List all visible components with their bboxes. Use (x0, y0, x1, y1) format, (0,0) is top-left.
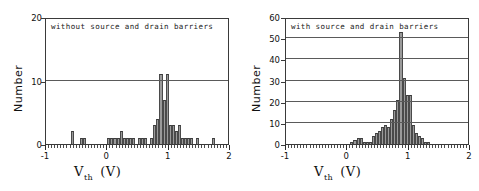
histogram-bar (132, 138, 135, 144)
x-tick-label: 2 (219, 151, 239, 161)
y-axis-label-right: Number (250, 65, 263, 112)
histogram-bar (144, 138, 147, 144)
histogram-bar (212, 138, 215, 144)
x-tick-mark (469, 145, 470, 150)
y-tick-mark (41, 82, 45, 83)
gridline (286, 37, 468, 38)
x-axis-label-unit: (V) (100, 164, 121, 179)
y-tick-label: 20 (269, 98, 280, 108)
x-axis-label-left: Vth(V) (74, 164, 121, 182)
x-tick-mark (346, 145, 347, 150)
y-tick-label: 40 (269, 55, 280, 65)
histogram-bar (190, 138, 193, 144)
x-tick-label: 1 (158, 151, 178, 161)
y-tick-mark (281, 103, 285, 104)
x-tick-mark (45, 145, 46, 150)
y-tick-mark (281, 124, 285, 125)
x-tick-mark (168, 145, 169, 150)
y-tick-mark (281, 60, 285, 61)
x-tick-label: -1 (275, 151, 295, 161)
x-tick-label: 1 (398, 151, 418, 161)
y-tick-mark (281, 145, 285, 146)
gridline (46, 80, 228, 81)
y-tick-label: 10 (269, 119, 280, 129)
x-tick-mark (285, 145, 286, 150)
x-tick-mark (106, 145, 107, 150)
x-axis-label-subscript: th (84, 173, 93, 182)
x-axis-minor-ticks (285, 145, 469, 149)
y-tick-mark (41, 18, 45, 19)
y-tick-label: 0 (275, 140, 280, 150)
y-tick-mark (281, 18, 285, 19)
figure-histogram-pair: 01020 Number without source and drain ba… (0, 0, 479, 191)
y-tick-label: 30 (269, 77, 280, 87)
gridline (286, 58, 468, 59)
x-axis-label-subscript: th (324, 173, 333, 182)
plot-area-right: with source and drain barriers (285, 18, 469, 145)
histogram-bar (196, 138, 199, 144)
gridline (286, 122, 468, 123)
y-tick-label: 50 (269, 34, 280, 44)
gridline (286, 101, 468, 102)
plot-area-left: without source and drain barriers (45, 18, 229, 145)
x-tick-mark (408, 145, 409, 150)
x-axis-minor-ticks (45, 145, 229, 149)
y-tick-mark (41, 145, 45, 146)
histogram-bar (427, 142, 430, 144)
y-tick-mark (281, 39, 285, 40)
histogram-bar (83, 138, 86, 144)
panel-with-barriers: 0102030405060 Number with source and dra… (240, 0, 479, 191)
gridline (286, 80, 468, 81)
x-tick-label: 0 (336, 151, 356, 161)
x-axis-label-unit: (V) (340, 164, 361, 179)
histogram-bar (71, 131, 74, 144)
x-axis-label-right: Vth(V) (314, 164, 361, 182)
x-tick-mark (229, 145, 230, 150)
panel-without-barriers: 01020 Number without source and drain ba… (0, 0, 240, 191)
histogram-bars-left (46, 19, 228, 144)
x-axis-label-symbol: V (74, 164, 84, 179)
x-axis-label-symbol: V (314, 164, 324, 179)
x-tick-label: 2 (459, 151, 479, 161)
y-tick-mark (281, 82, 285, 83)
y-axis-label-left: Number (12, 65, 25, 112)
x-tick-label: 0 (96, 151, 116, 161)
y-tick-label: 60 (269, 13, 280, 23)
x-tick-label: -1 (35, 151, 55, 161)
